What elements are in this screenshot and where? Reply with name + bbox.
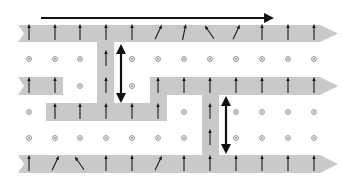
out-of-plane-spin-icon: [27, 57, 32, 62]
out-of-plane-spin-icon: [130, 136, 135, 141]
domain-width-arrow-2-icon: [221, 96, 231, 154]
band-row-2-right: [150, 77, 338, 121]
band-vertical-col7: [202, 95, 219, 157]
out-of-plane-spin-icon: [53, 57, 58, 62]
band-row-2-left: [18, 77, 63, 95]
out-of-plane-spin-icon: [130, 84, 135, 89]
out-of-plane-spin-icon: [156, 136, 161, 141]
out-of-plane-spin-icon: [78, 84, 83, 89]
out-of-plane-spin-icon: [260, 136, 265, 141]
out-of-plane-spin-icon: [286, 136, 291, 141]
current-path-bands: [18, 25, 338, 173]
out-of-plane-spin-icon: [234, 110, 239, 115]
band-row-0: [18, 25, 338, 42]
out-of-plane-spin-icon: [182, 110, 187, 115]
out-of-plane-spin-icon: [130, 57, 135, 62]
racetrack-diagram: [0, 0, 353, 189]
out-of-plane-spin-icon: [78, 136, 83, 141]
out-of-plane-spin-icon: [104, 136, 109, 141]
out-of-plane-spin-icon: [208, 57, 213, 62]
spin-grid: [27, 26, 317, 171]
out-of-plane-spin-icon: [234, 136, 239, 141]
out-of-plane-spin-icon: [156, 57, 161, 62]
band-row-5: [18, 155, 338, 173]
out-of-plane-spin-icon: [27, 110, 32, 115]
out-of-plane-spin-icon: [27, 136, 32, 141]
domain-width-arrow-1-icon: [116, 44, 126, 103]
out-of-plane-spin-icon: [260, 110, 265, 115]
out-of-plane-spin-icon: [260, 57, 265, 62]
out-of-plane-spin-icon: [78, 57, 83, 62]
out-of-plane-spin-icon: [312, 57, 317, 62]
out-of-plane-spin-icon: [182, 57, 187, 62]
out-of-plane-spin-icon: [312, 110, 317, 115]
out-of-plane-spin-icon: [312, 136, 317, 141]
out-of-plane-spin-icon: [286, 57, 291, 62]
out-of-plane-spin-icon: [53, 136, 58, 141]
out-of-plane-spin-icon: [286, 110, 291, 115]
out-of-plane-spin-icon: [182, 136, 187, 141]
out-of-plane-spin-icon: [234, 57, 239, 62]
